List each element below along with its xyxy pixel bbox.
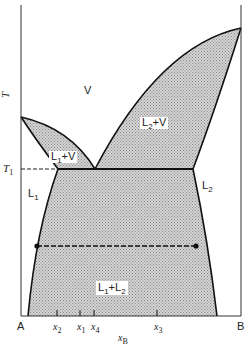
t1-label: T1: [3, 162, 13, 177]
tick-label-x4: x4: [90, 321, 99, 335]
label-l2: L2: [202, 179, 213, 194]
x-axis-label: xB: [117, 332, 128, 346]
phase-diagram: T T1 V L1+V L2+V L1 L2 L1+L2 A B x2 x1 x…: [0, 0, 252, 347]
tie-line-left-point: [34, 243, 39, 248]
label-a: A: [17, 320, 25, 332]
tick-label-x2: x2: [52, 321, 61, 335]
tick-label-x1: x1: [76, 321, 85, 335]
label-b: B: [237, 320, 244, 332]
label-v: V: [84, 84, 92, 96]
y-axis-label: T: [0, 91, 11, 98]
tie-line-right-point: [193, 243, 198, 248]
tick-label-x3: x3: [153, 321, 162, 335]
label-l1: L1: [28, 187, 39, 202]
l2-v-region: [95, 28, 241, 169]
